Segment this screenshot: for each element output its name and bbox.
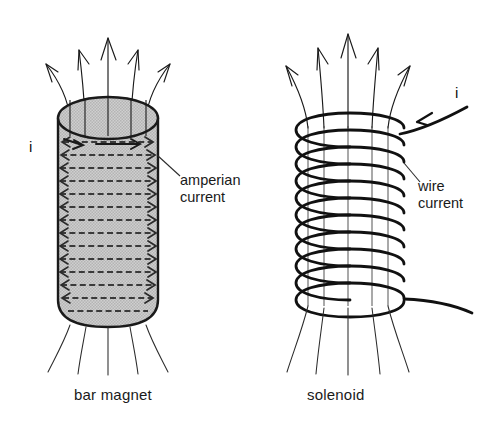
amperian-current-annotation: amperian current (180, 172, 240, 206)
bar-magnet-caption: bar magnet (74, 386, 152, 403)
wire-current-annotation-line1: wire (418, 178, 463, 195)
wire-current-annotation: wire current (418, 178, 463, 212)
physics-diagram-canvas (0, 0, 496, 433)
field-lines-bottom-right (287, 306, 409, 375)
wire-lead-bottom (404, 299, 472, 313)
amperian-current-leader-line (157, 155, 180, 176)
amperian-current-annotation-line1: amperian (180, 172, 240, 189)
amperian-current-annotation-line2: current (180, 189, 240, 206)
wire-current-arrowhead (417, 113, 432, 125)
field-lines-bottom-left (48, 325, 168, 375)
bar-magnet-group (46, 38, 180, 375)
bar-magnet-current-label: i (29, 138, 32, 155)
solenoid-caption: solenoid (307, 386, 364, 403)
wire-lead-top (400, 107, 467, 134)
solenoid-current-label: i (455, 84, 458, 101)
wire-current-annotation-line2: current (418, 195, 463, 212)
